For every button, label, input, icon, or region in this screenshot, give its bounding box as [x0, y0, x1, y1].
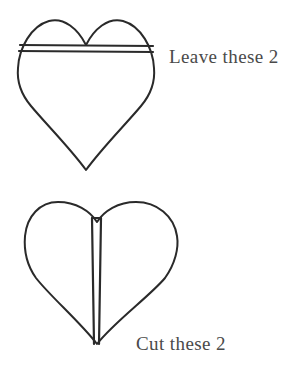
bottom-heart-group	[25, 202, 178, 344]
caption-leave-these-2: Leave these 2	[169, 45, 279, 69]
top-heart-guide-line-2	[19, 51, 153, 52]
caption-cut-these-2: Cut these 2	[136, 332, 226, 356]
diagram-page: Leave these 2 Cut these 2	[0, 0, 294, 370]
top-heart-guide-line-1	[20, 45, 153, 46]
top-heart-group	[18, 20, 154, 170]
top-heart-outline	[18, 20, 154, 170]
